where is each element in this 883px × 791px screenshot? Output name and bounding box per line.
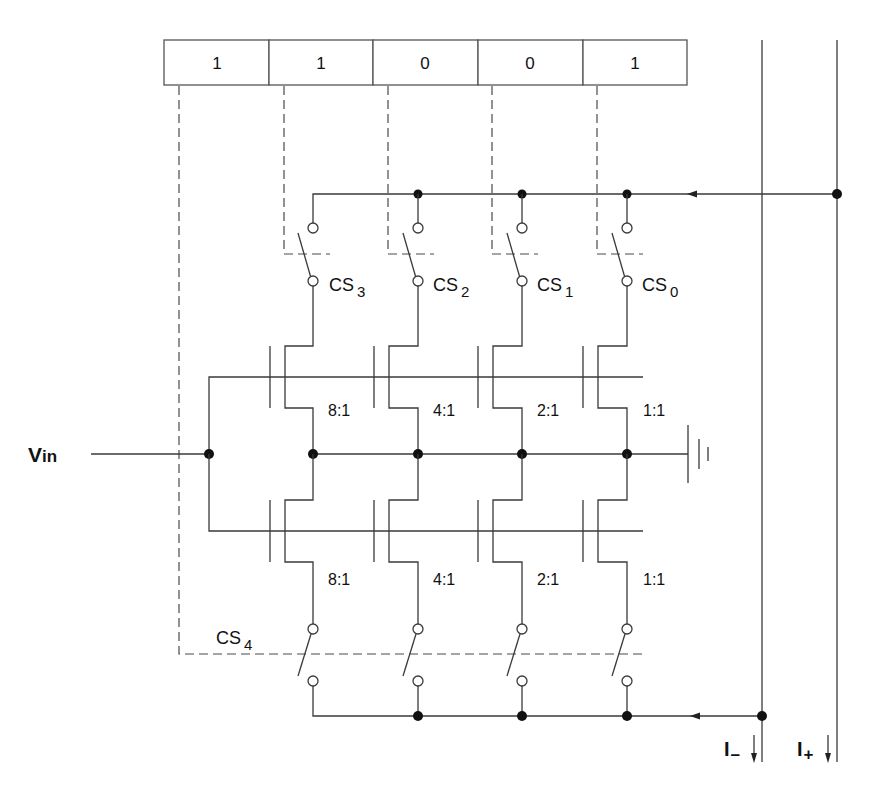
bottom-bus — [313, 686, 767, 721]
register-bit-value: 0 — [525, 54, 534, 73]
switch-contact — [308, 624, 318, 634]
arrow-left-icon — [690, 713, 700, 720]
switch-blade — [612, 233, 625, 278]
junction-dot — [757, 711, 767, 721]
register-bit-value: 1 — [630, 54, 639, 73]
control-line-cs2 — [388, 86, 434, 254]
transistor-channel — [493, 454, 522, 624]
transistor-channel — [389, 286, 418, 454]
junction-dot — [622, 711, 632, 721]
switch-contact — [622, 676, 632, 686]
switch-label-cs2: CS2 — [433, 275, 469, 300]
register-bit-value: 1 — [212, 54, 221, 73]
switch-blade — [403, 634, 416, 676]
junction-dot — [517, 711, 527, 721]
control-register: 1 1 0 0 1 — [164, 40, 687, 85]
switch-blade — [298, 634, 311, 676]
arrow-left-icon — [687, 191, 697, 198]
ratio-label: 4:1 — [433, 402, 455, 419]
control-lines — [179, 86, 644, 654]
switch-contact — [308, 276, 318, 286]
switch-contact — [413, 276, 423, 286]
output-rails — [762, 40, 837, 762]
upper-gate-line — [209, 377, 643, 454]
transistor-channel — [285, 286, 313, 454]
register-bit-value: 1 — [316, 54, 325, 73]
ratio-label: 2:1 — [537, 402, 559, 419]
output-labels: I– I+ — [724, 735, 831, 764]
vin-label: Vin — [28, 443, 57, 466]
switch-contact — [413, 223, 423, 233]
transistor-channel — [493, 286, 522, 454]
switch-blade — [507, 634, 520, 676]
switch-contact — [308, 223, 318, 233]
output-label-i-plus: I+ — [797, 738, 814, 764]
switch-contact — [413, 624, 423, 634]
switch-label-cs1: CS1 — [537, 275, 573, 300]
lower-gate-line — [209, 454, 643, 531]
switch-contact — [517, 624, 527, 634]
switch-contact — [622, 223, 632, 233]
switch-label-cs3: CS3 — [329, 275, 365, 300]
control-line-cs1 — [492, 86, 538, 254]
transistor-channel — [598, 454, 627, 624]
register-bit-value: 0 — [420, 54, 429, 73]
ratio-label: 1:1 — [643, 402, 665, 419]
transistor-channel — [285, 454, 313, 624]
switch-contact — [308, 676, 318, 686]
lower-switches: CS4 — [216, 624, 632, 686]
lower-transistor-row: 8:1 4:1 2:1 1:1 — [209, 454, 665, 624]
upper-transistor-row: 8:1 4:1 2:1 1:1 — [209, 286, 665, 454]
switch-blade — [612, 634, 625, 676]
ground-icon — [688, 425, 708, 483]
control-line-cs0 — [597, 86, 643, 254]
switch-contact — [413, 676, 423, 686]
control-line-cs3 — [284, 86, 330, 254]
arrow-down-icon — [751, 753, 757, 763]
ratio-label: 8:1 — [328, 402, 350, 419]
ratio-label: 1:1 — [643, 571, 665, 588]
switch-contact — [622, 624, 632, 634]
arrow-down-icon — [825, 753, 831, 763]
switch-contact — [517, 223, 527, 233]
control-line-cs4 — [179, 86, 644, 654]
ratio-label: 2:1 — [537, 571, 559, 588]
switch-blade — [298, 233, 311, 278]
upper-switches: CS3 CS2 CS1 CS0 — [298, 223, 678, 300]
circuit-diagram: 1 1 0 0 1 — [0, 0, 883, 791]
top-bus-wire — [313, 194, 837, 223]
ratio-label: 4:1 — [433, 571, 455, 588]
middle-bus: Vin — [28, 425, 708, 483]
switch-label-cs4: CS4 — [216, 628, 252, 653]
top-bus — [313, 189, 842, 223]
switch-blade — [507, 233, 520, 278]
bottom-bus-wire — [313, 686, 762, 716]
output-label-i-minus: I– — [724, 738, 740, 764]
transistor-channel — [598, 286, 627, 454]
switch-contact — [517, 276, 527, 286]
ratio-label: 8:1 — [328, 571, 350, 588]
switch-blade — [403, 233, 416, 278]
transistor-channel — [389, 454, 418, 624]
junction-dot — [413, 711, 423, 721]
junction-dot — [832, 189, 842, 199]
switch-contact — [622, 276, 632, 286]
switch-contact — [517, 676, 527, 686]
switch-label-cs0: CS0 — [642, 275, 678, 300]
